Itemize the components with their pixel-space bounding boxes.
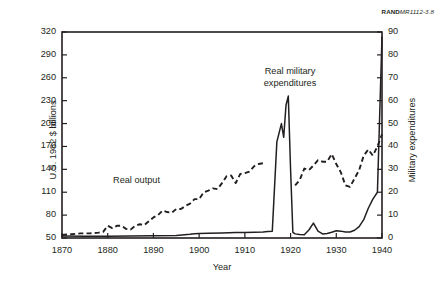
y-tick-230: 230: [26, 95, 56, 105]
annotation-military-line1: Real military: [232, 66, 348, 78]
axes-frame: [62, 32, 382, 238]
y2-tick-50: 50: [388, 118, 418, 128]
y2-tick-30: 30: [388, 163, 418, 173]
y2-tick-0: 0: [388, 232, 418, 242]
x-tick-1930: 1930: [316, 245, 356, 255]
x-tick-1910: 1910: [225, 245, 265, 255]
annotation-military-line2: expenditures: [232, 78, 348, 90]
y-tick-110: 110: [26, 186, 56, 196]
y-tick-140: 140: [26, 163, 56, 173]
y2-tick-60: 60: [388, 95, 418, 105]
y2-tick-40: 40: [388, 140, 418, 150]
y2-tick-10: 10: [388, 209, 418, 219]
y-tick-170: 170: [26, 140, 56, 150]
figure-container: RANDMR1112-3.8 U.S. 1982 $ billions Mili…: [0, 0, 439, 284]
x-tick-1870: 1870: [42, 245, 82, 255]
x-tick-1920: 1920: [271, 245, 311, 255]
source-tag-italic: MR1112-3.8: [400, 8, 434, 15]
annotation-real-military-expenditures: Real military expenditures: [232, 66, 348, 89]
source-tag-bold: RAND: [382, 8, 400, 15]
plot-area: [0, 0, 439, 284]
x-tick-1880: 1880: [88, 245, 128, 255]
y2-tick-90: 90: [388, 26, 418, 36]
series-real-output-seg1: [295, 134, 382, 187]
y-tick-50: 50: [26, 232, 56, 242]
y-tick-260: 260: [26, 72, 56, 82]
y-tick-290: 290: [26, 49, 56, 59]
y2-tick-80: 80: [388, 49, 418, 59]
axis-ticks: [62, 32, 382, 238]
y-tick-320: 320: [26, 26, 56, 36]
annotation-real-output: Real output: [113, 175, 185, 187]
y-tick-200: 200: [26, 118, 56, 128]
y-tick-80: 80: [26, 209, 56, 219]
y2-tick-70: 70: [388, 72, 418, 82]
x-tick-1900: 1900: [179, 245, 219, 255]
y2-tick-20: 20: [388, 186, 418, 196]
source-tag: RANDMR1112-3.8: [382, 8, 434, 15]
x-tick-1940: 1940: [362, 245, 402, 255]
x-axis-title: Year: [62, 262, 382, 272]
x-tick-1890: 1890: [133, 245, 173, 255]
series-real-output-seg0: [62, 163, 263, 235]
